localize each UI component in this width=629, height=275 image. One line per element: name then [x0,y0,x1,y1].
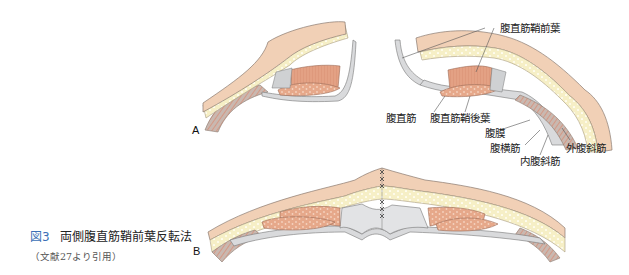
figure-title: 両側腹直筋鞘前葉反転法 [60,230,192,244]
label-external-oblique: 外腹斜筋 [566,143,606,154]
label-internal-oblique: 内腹斜筋 [520,156,560,167]
panel-letter-a: A [192,124,199,136]
label-posterior-sheath: 腹直筋鞘後葉 [430,113,490,124]
figure-source: （文献27より引用） [30,249,192,263]
caption-title-line: 図3両側腹直筋鞘前葉反転法 [30,227,192,244]
figure-number: 図3 [30,230,50,244]
label-rectus: 腹直筋 [386,113,416,124]
panel-b [208,168,565,262]
figure-caption: 図3両側腹直筋鞘前葉反転法 （文献27より引用） [30,227,192,263]
panel-a-left [203,22,356,132]
panel-letter-b: B [193,245,200,257]
label-transversus: 腹横筋 [490,143,520,154]
figure-3: 腹直筋鞘前葉 腹直筋 腹直筋鞘後葉 腹膜 腹横筋 外腹斜筋 内腹斜筋 A B 図… [0,0,629,275]
label-anterior-sheath: 腹直筋鞘前葉 [500,23,560,34]
label-peritoneum: 腹膜 [485,128,505,139]
